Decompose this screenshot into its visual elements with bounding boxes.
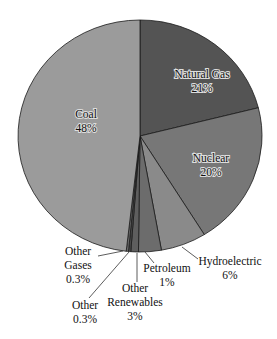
pie-svg: Natural Gas 21% Nuclear 20% Coal 48% Hyd…	[0, 0, 277, 339]
svg-text:Gases: Gases	[64, 259, 92, 271]
svg-text:Nuclear: Nuclear	[193, 152, 230, 164]
svg-text:Other: Other	[72, 299, 98, 311]
svg-text:Coal: Coal	[75, 108, 97, 120]
svg-text:Petroleum: Petroleum	[143, 262, 190, 274]
svg-text:48%: 48%	[75, 122, 97, 134]
pie-chart: Natural Gas 21% Nuclear 20% Coal 48% Hyd…	[0, 0, 277, 339]
label-other-gases: Other Gases 0.3%	[64, 245, 92, 285]
svg-text:6%: 6%	[222, 269, 238, 281]
svg-text:Natural Gas: Natural Gas	[174, 68, 230, 80]
svg-text:Renewables: Renewables	[107, 296, 163, 308]
svg-text:21%: 21%	[191, 82, 213, 94]
svg-text:0.3%: 0.3%	[66, 273, 90, 285]
pie-slice-coal	[18, 20, 140, 251]
svg-text:Other: Other	[122, 282, 148, 294]
svg-text:20%: 20%	[200, 166, 222, 178]
pie-slices	[18, 20, 262, 252]
svg-text:Hydroelectric: Hydroelectric	[198, 255, 261, 268]
label-other: Other 0.3%	[72, 299, 98, 325]
svg-text:3%: 3%	[127, 310, 143, 322]
label-hydroelectric: Hydroelectric 6%	[198, 255, 261, 281]
label-other-renewables: Other Renewables 3%	[107, 282, 163, 322]
svg-text:1%: 1%	[159, 276, 175, 288]
svg-text:Other: Other	[65, 245, 91, 257]
label-petroleum: Petroleum 1%	[143, 262, 190, 288]
svg-text:0.3%: 0.3%	[73, 313, 97, 325]
